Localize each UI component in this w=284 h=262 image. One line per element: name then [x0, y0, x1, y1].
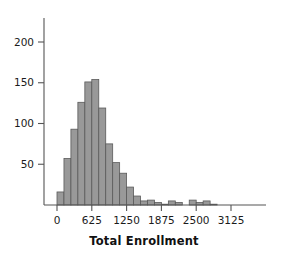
histogram-bar: [85, 82, 92, 205]
x-tick-label: 1250: [113, 214, 140, 226]
histogram-bar: [71, 129, 78, 205]
histogram-bar: [147, 200, 154, 205]
y-axis: [38, 18, 44, 205]
histogram-bar: [106, 144, 113, 205]
histogram-bar: [168, 201, 175, 205]
histogram-chart: 50100150200 06251250187525003125 Total E…: [0, 0, 284, 262]
histogram-bar: [120, 173, 127, 205]
x-tick-label: 0: [54, 214, 61, 226]
y-tick-labels: 50100150200: [14, 36, 34, 170]
histogram-bar: [92, 79, 99, 205]
histogram-bar: [57, 192, 64, 205]
chart-canvas: 50100150200 06251250187525003125 Total E…: [0, 0, 284, 262]
x-tick-label: 3125: [218, 214, 245, 226]
histogram-bar: [99, 108, 106, 205]
y-tick-label: 200: [14, 36, 34, 48]
y-tick-label: 150: [14, 76, 34, 88]
x-axis: [44, 205, 266, 211]
x-tick-label: 625: [82, 214, 102, 226]
x-tick-label: 1875: [148, 214, 175, 226]
histogram-bar: [64, 159, 71, 205]
histogram-bar: [78, 102, 85, 205]
histogram-bar: [189, 200, 196, 205]
bars-group: [57, 79, 217, 205]
histogram-bar: [141, 201, 148, 205]
x-tick-labels: 06251250187525003125: [54, 214, 245, 226]
y-tick-label: 100: [14, 117, 34, 129]
histogram-bar: [134, 196, 141, 205]
histogram-bar: [203, 201, 210, 205]
x-tick-label: 2500: [183, 214, 210, 226]
y-tick-label: 50: [21, 158, 34, 170]
x-axis-title: Total Enrollment: [89, 234, 199, 248]
histogram-bar: [127, 187, 134, 205]
histogram-bar: [113, 163, 120, 205]
